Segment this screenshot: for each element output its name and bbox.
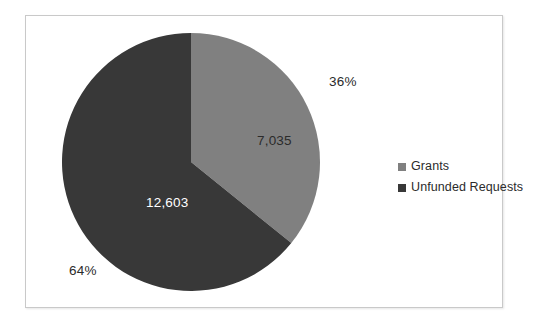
legend-label-unfunded-requests: Unfunded Requests xyxy=(411,181,523,194)
legend-swatch-icon-grants xyxy=(398,163,406,171)
pie-chart-plot-area: 36% 7,035 12,603 64% Grants Unfunded Req… xyxy=(26,16,504,309)
chart-legend: Grants Unfunded Requests xyxy=(398,156,526,198)
legend-item-grants[interactable]: Grants xyxy=(398,156,526,177)
pie-value-label-unfunded: 12,603 xyxy=(146,196,189,210)
pie-percent-label-grants: 36% xyxy=(329,75,357,89)
chart-frame: 36% 7,035 12,603 64% Grants Unfunded Req… xyxy=(25,15,503,308)
legend-item-unfunded-requests[interactable]: Unfunded Requests xyxy=(398,177,526,198)
legend-label-grants: Grants xyxy=(411,160,449,173)
legend-swatch-icon-unfunded-requests xyxy=(398,184,406,192)
pie-value-label-grants: 7,035 xyxy=(257,134,292,148)
pie-percent-label-unfunded: 64% xyxy=(69,264,97,278)
